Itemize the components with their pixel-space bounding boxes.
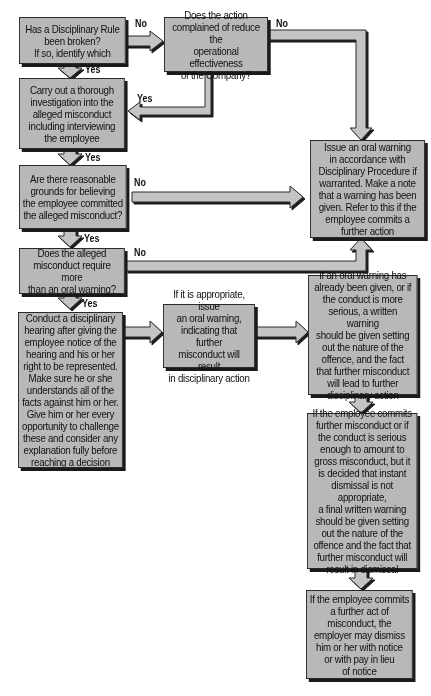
edge-label-rule-no: No xyxy=(135,17,147,29)
flowchart-canvas: Has a Disciplinary Rule been broken? If … xyxy=(0,0,431,696)
arrow-oral-to-written xyxy=(250,321,308,343)
edge-label-more-no: No xyxy=(134,246,146,258)
node-reduce-effectiveness-text: Does the action complained of reduce the… xyxy=(168,9,265,81)
arrow-grounds-no xyxy=(132,186,303,208)
arrow-grounds-yes xyxy=(58,228,82,247)
edge-label-grounds-no: No xyxy=(134,176,146,188)
node-oral-warning-if-appropriate: If it is appropriate, issue an oral warn… xyxy=(163,304,255,368)
node-hearing: Conduct a disciplinary hearing after giv… xyxy=(18,312,123,468)
node-written-warning-text: If an oral warning has already been give… xyxy=(312,269,414,401)
node-hearing-text: Conduct a disciplinary hearing after giv… xyxy=(22,312,119,468)
arrow-more-no xyxy=(126,238,372,271)
node-oral-warning-procedure: Issue an oral warning in accordance with… xyxy=(310,140,425,238)
node-more-than-oral-text: Does the alleged misconduct require more… xyxy=(23,247,121,295)
node-written-warning: If an oral warning has already been give… xyxy=(308,275,417,395)
node-reasonable-grounds: Are there reasonable grounds for believi… xyxy=(19,165,127,229)
node-oral-warning-if-appropriate-text: If it is appropriate, issue an oral warn… xyxy=(167,288,252,384)
arrow-reduce-no xyxy=(268,30,372,140)
node-reduce-effectiveness: Does the action complained of reduce the… xyxy=(164,17,268,72)
node-oral-warning-procedure-text: Issue an oral warning in accordance with… xyxy=(318,141,416,237)
arrow-hearing-to-oral xyxy=(122,321,162,343)
node-investigate: Carry out a thorough investigation into … xyxy=(19,78,125,149)
node-reasonable-grounds-text: Are there reasonable grounds for believi… xyxy=(23,173,123,221)
edge-label-rule-yes: Yes xyxy=(85,63,100,75)
edge-label-reduce-yes: Yes xyxy=(137,92,152,104)
node-more-than-oral: Does the alleged misconduct require more… xyxy=(19,248,125,294)
edge-label-investigate-yes: Yes xyxy=(85,151,100,163)
arrow-more-yes xyxy=(58,293,82,309)
node-rule-broken: Has a Disciplinary Rule been broken? If … xyxy=(19,17,126,64)
node-investigate-text: Carry out a thorough investigation into … xyxy=(29,84,116,144)
edge-label-more-yes: Yes xyxy=(82,297,97,309)
node-dismissal: If the employee commits a further act of… xyxy=(306,590,413,679)
arrow-rule-yes xyxy=(58,62,82,78)
edge-label-reduce-no: No xyxy=(276,17,288,29)
edge-label-grounds-yes: Yes xyxy=(84,232,99,244)
arrow-investigate-yes xyxy=(58,149,82,165)
node-final-written-warning: If the employee commits further miscondu… xyxy=(307,413,417,569)
node-final-written-warning-text: If the employee commits further miscondu… xyxy=(311,407,414,575)
node-rule-broken-text: Has a Disciplinary Rule been broken? If … xyxy=(25,23,119,59)
node-dismissal-text: If the employee commits a further act of… xyxy=(310,593,409,677)
arrow-rule-no xyxy=(126,31,163,51)
